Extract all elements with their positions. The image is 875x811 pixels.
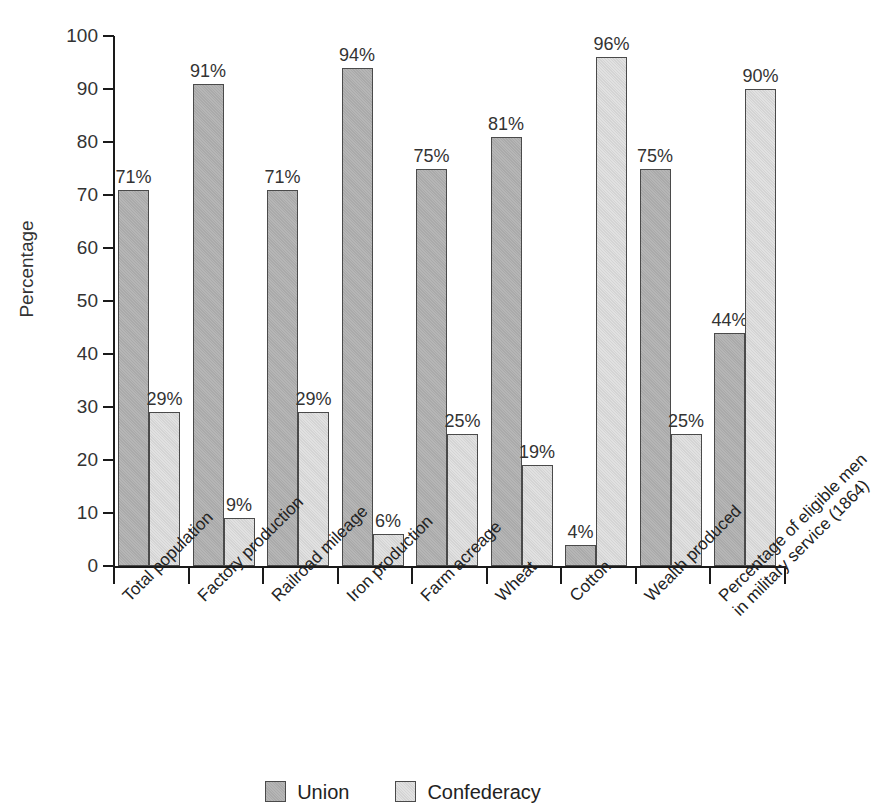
bar-union-4 bbox=[416, 169, 447, 567]
legend-swatch-union bbox=[265, 781, 286, 802]
y-tick-70 bbox=[103, 194, 114, 196]
bar-confed-8 bbox=[745, 89, 776, 566]
bar-union-7 bbox=[640, 169, 671, 567]
bar-union-6 bbox=[565, 545, 596, 566]
chart-legend: UnionConfederacy bbox=[0, 781, 806, 802]
y-tick-0 bbox=[103, 565, 114, 567]
legend-item-union[interactable]: Union bbox=[265, 781, 349, 802]
y-tick-label-70: 70 bbox=[52, 185, 98, 204]
bar-union-5 bbox=[491, 137, 522, 566]
bar-value-confed-1: 9% bbox=[212, 496, 267, 514]
y-tick-label-10: 10 bbox=[52, 503, 98, 522]
bar-value-union-0: 71% bbox=[106, 168, 161, 186]
bar-value-union-4: 75% bbox=[404, 147, 459, 165]
y-tick-60 bbox=[103, 247, 114, 249]
x-tick-3 bbox=[337, 568, 339, 584]
bar-value-union-7: 75% bbox=[628, 147, 683, 165]
legend-swatch-confed bbox=[395, 781, 416, 802]
bar-value-union-2: 71% bbox=[255, 168, 310, 186]
x-tick-2 bbox=[262, 568, 264, 584]
bar-value-union-1: 91% bbox=[181, 62, 236, 80]
y-tick-label-50: 50 bbox=[52, 291, 98, 310]
y-tick-label-100: 100 bbox=[52, 26, 98, 45]
y-tick-30 bbox=[103, 406, 114, 408]
x-tick-1 bbox=[188, 568, 190, 584]
bar-value-union-3: 94% bbox=[330, 46, 385, 64]
y-tick-label-40: 40 bbox=[52, 344, 98, 363]
bar-confed-6 bbox=[596, 57, 627, 566]
legend-item-confed[interactable]: Confederacy bbox=[395, 781, 540, 802]
bar-value-confed-7: 25% bbox=[659, 412, 714, 430]
x-tick-0 bbox=[113, 568, 115, 584]
bar-union-0 bbox=[118, 190, 149, 566]
x-tick-6 bbox=[560, 568, 562, 584]
y-axis-title: Percentage bbox=[16, 209, 38, 329]
x-tick-5 bbox=[486, 568, 488, 584]
y-tick-40 bbox=[103, 353, 114, 355]
y-tick-50 bbox=[103, 300, 114, 302]
x-tick-8 bbox=[709, 568, 711, 584]
legend-label-union: Union bbox=[297, 782, 349, 802]
y-tick-20 bbox=[103, 459, 114, 461]
bar-union-3 bbox=[342, 68, 373, 566]
bar-confed-5 bbox=[522, 465, 553, 566]
x-tick-4 bbox=[411, 568, 413, 584]
legend-label-confed: Confederacy bbox=[427, 782, 540, 802]
x-tick-7 bbox=[635, 568, 637, 584]
y-tick-label-0: 0 bbox=[52, 556, 98, 575]
bar-value-confed-0: 29% bbox=[137, 390, 192, 408]
bar-value-confed-4: 25% bbox=[435, 412, 490, 430]
bar-value-confed-6: 96% bbox=[584, 35, 639, 53]
y-tick-label-60: 60 bbox=[52, 238, 98, 257]
y-tick-label-30: 30 bbox=[52, 397, 98, 416]
y-tick-10 bbox=[103, 512, 114, 514]
y-tick-label-80: 80 bbox=[52, 132, 98, 151]
bar-union-1 bbox=[193, 84, 224, 566]
y-tick-80 bbox=[103, 141, 114, 143]
bar-value-confed-5: 19% bbox=[510, 443, 565, 461]
bar-value-confed-8: 90% bbox=[733, 67, 788, 85]
bar-value-confed-2: 29% bbox=[286, 390, 341, 408]
y-tick-label-20: 20 bbox=[52, 450, 98, 469]
y-tick-90 bbox=[103, 88, 114, 90]
bar-value-union-5: 81% bbox=[479, 115, 534, 133]
y-tick-100 bbox=[103, 35, 114, 37]
y-tick-label-90: 90 bbox=[52, 79, 98, 98]
